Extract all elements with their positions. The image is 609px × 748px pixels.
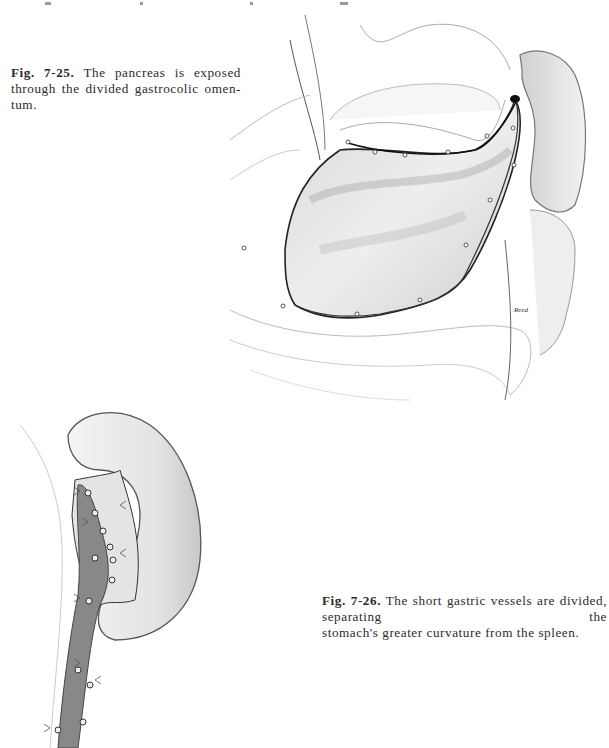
- caption-line: stomach's greater curvature from the spl…: [322, 625, 579, 640]
- figure-caption-7-25: Fig. 7-25. The pancreas is exposed throu…: [11, 65, 241, 113]
- caption-line: The pancreas is exposed: [83, 65, 241, 80]
- caption-line: through the divided gastrocolic omen-: [11, 81, 241, 97]
- caption-line: tum.: [11, 97, 37, 112]
- artist-signature: Reed: [513, 306, 528, 314]
- figure-label: Fig. 7-26.: [322, 593, 381, 608]
- figure-label: Fig. 7-25.: [11, 65, 74, 80]
- figure-caption-7-26: Fig. 7-26. The short gastric vessels are…: [322, 593, 607, 641]
- illustration-short-gastric-vessels: [0, 395, 240, 748]
- illustration-pancreas-exposed: Reed: [230, 0, 609, 420]
